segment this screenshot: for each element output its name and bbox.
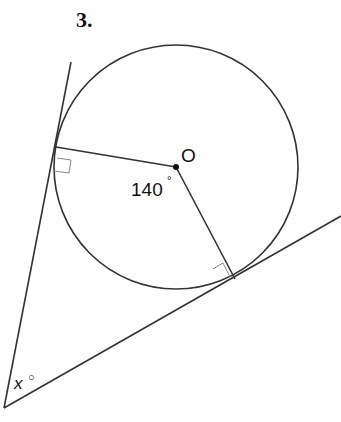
left-tangent-line bbox=[4, 62, 71, 408]
bottom-radius bbox=[176, 167, 235, 279]
unknown-angle-degree: ○ bbox=[28, 371, 35, 383]
unknown-angle-label: x bbox=[13, 374, 23, 393]
left-radius bbox=[56, 147, 176, 167]
question-number: 3. bbox=[76, 7, 93, 32]
geometry-diagram: 3. O 140 ° x ○ bbox=[0, 0, 341, 422]
center-label: O bbox=[181, 145, 196, 166]
center-angle-label: 140 bbox=[131, 179, 163, 200]
bottom-tangent-line bbox=[4, 216, 341, 408]
center-point bbox=[173, 164, 179, 170]
center-angle-degree: ° bbox=[167, 174, 171, 186]
right-angle-marker-left bbox=[54, 158, 71, 173]
